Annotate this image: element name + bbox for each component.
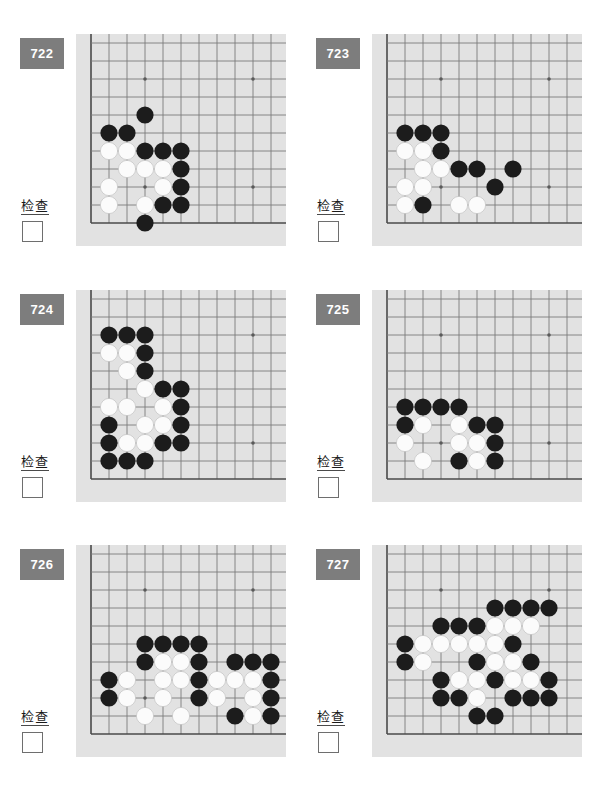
go-board[interactable] [76,545,286,757]
white-stone[interactable] [468,196,485,213]
white-stone[interactable] [118,434,135,451]
check-checkbox[interactable] [22,477,43,498]
black-stone[interactable] [486,416,503,433]
black-stone[interactable] [486,599,503,616]
black-stone[interactable] [262,653,279,670]
white-stone[interactable] [154,689,171,706]
black-stone[interactable] [504,635,521,652]
white-stone[interactable] [244,689,261,706]
black-stone[interactable] [172,178,189,195]
black-stone[interactable] [396,398,413,415]
black-stone[interactable] [504,599,521,616]
black-stone[interactable] [432,617,449,634]
black-stone[interactable] [100,671,117,688]
white-stone[interactable] [396,178,413,195]
white-stone[interactable] [172,671,189,688]
white-stone[interactable] [118,671,135,688]
black-stone[interactable] [136,142,153,159]
white-stone[interactable] [450,671,467,688]
black-stone[interactable] [172,196,189,213]
white-stone[interactable] [504,653,521,670]
black-stone[interactable] [190,671,207,688]
black-stone[interactable] [136,214,153,231]
check-checkbox[interactable] [318,732,339,753]
check-checkbox[interactable] [318,477,339,498]
black-stone[interactable] [432,398,449,415]
white-stone[interactable] [414,142,431,159]
black-stone[interactable] [118,124,135,141]
white-stone[interactable] [172,653,189,670]
black-stone[interactable] [154,380,171,397]
white-stone[interactable] [208,689,225,706]
black-stone[interactable] [432,671,449,688]
black-stone[interactable] [136,362,153,379]
black-stone[interactable] [100,434,117,451]
white-stone[interactable] [118,689,135,706]
white-stone[interactable] [504,671,521,688]
white-stone[interactable] [432,635,449,652]
black-stone[interactable] [136,344,153,361]
black-stone[interactable] [100,452,117,469]
black-stone[interactable] [414,124,431,141]
white-stone[interactable] [414,635,431,652]
white-stone[interactable] [244,707,261,724]
black-stone[interactable] [172,380,189,397]
white-stone[interactable] [136,196,153,213]
white-stone[interactable] [154,398,171,415]
black-stone[interactable] [468,653,485,670]
black-stone[interactable] [450,689,467,706]
black-stone[interactable] [450,617,467,634]
black-stone[interactable] [136,106,153,123]
white-stone[interactable] [100,142,117,159]
black-stone[interactable] [414,398,431,415]
white-stone[interactable] [136,160,153,177]
black-stone[interactable] [504,160,521,177]
black-stone[interactable] [118,452,135,469]
black-stone[interactable] [136,653,153,670]
white-stone[interactable] [172,707,189,724]
black-stone[interactable] [154,142,171,159]
white-stone[interactable] [208,671,225,688]
check-checkbox[interactable] [22,732,43,753]
go-board[interactable] [76,34,286,246]
white-stone[interactable] [154,178,171,195]
white-stone[interactable] [244,671,261,688]
black-stone[interactable] [262,689,279,706]
black-stone[interactable] [244,653,261,670]
white-stone[interactable] [504,617,521,634]
white-stone[interactable] [414,178,431,195]
black-stone[interactable] [540,599,557,616]
check-checkbox[interactable] [318,221,339,242]
white-stone[interactable] [100,178,117,195]
white-stone[interactable] [136,416,153,433]
white-stone[interactable] [450,635,467,652]
black-stone[interactable] [136,635,153,652]
white-stone[interactable] [432,160,449,177]
go-board[interactable] [372,34,582,246]
white-stone[interactable] [136,707,153,724]
white-stone[interactable] [450,196,467,213]
black-stone[interactable] [172,434,189,451]
black-stone[interactable] [468,416,485,433]
black-stone[interactable] [154,434,171,451]
black-stone[interactable] [450,398,467,415]
white-stone[interactable] [396,142,413,159]
white-stone[interactable] [154,671,171,688]
white-stone[interactable] [522,617,539,634]
black-stone[interactable] [172,398,189,415]
white-stone[interactable] [468,689,485,706]
black-stone[interactable] [432,142,449,159]
white-stone[interactable] [154,416,171,433]
black-stone[interactable] [172,160,189,177]
white-stone[interactable] [100,398,117,415]
black-stone[interactable] [468,160,485,177]
black-stone[interactable] [396,653,413,670]
black-stone[interactable] [172,416,189,433]
black-stone[interactable] [486,434,503,451]
white-stone[interactable] [118,344,135,361]
black-stone[interactable] [450,452,467,469]
white-stone[interactable] [414,160,431,177]
white-stone[interactable] [118,398,135,415]
black-stone[interactable] [136,452,153,469]
black-stone[interactable] [154,635,171,652]
